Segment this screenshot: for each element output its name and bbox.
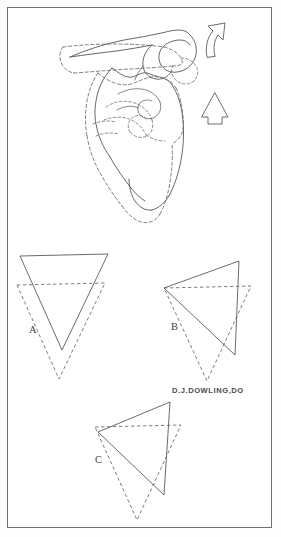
triangle-b-group: B [164,261,251,381]
triangle-a-group: A [17,254,108,379]
artist-signature: D.J.DOWLING,DO [172,386,244,395]
figure-canvas: A B C D.J.DOWLING,DO [0,0,281,537]
triangle-c-label: C [95,454,102,465]
triangle-c-solid [98,402,170,495]
triangle-b-solid [164,261,239,355]
triangle-a-label: A [29,324,37,335]
triangle-a-solid [20,254,108,350]
scapula-solid-position [70,30,196,210]
triangle-c-group: C [95,402,181,520]
straight-up-arrow [202,93,228,124]
figure-root: A B C D.J.DOWLING,DO [0,0,281,537]
triangle-c-dashed [95,425,181,520]
scapula-dashed-position [60,44,198,223]
scapula-illustration [60,30,198,223]
triangle-b-label: B [171,321,178,332]
curved-rotation-arrow [206,23,225,57]
